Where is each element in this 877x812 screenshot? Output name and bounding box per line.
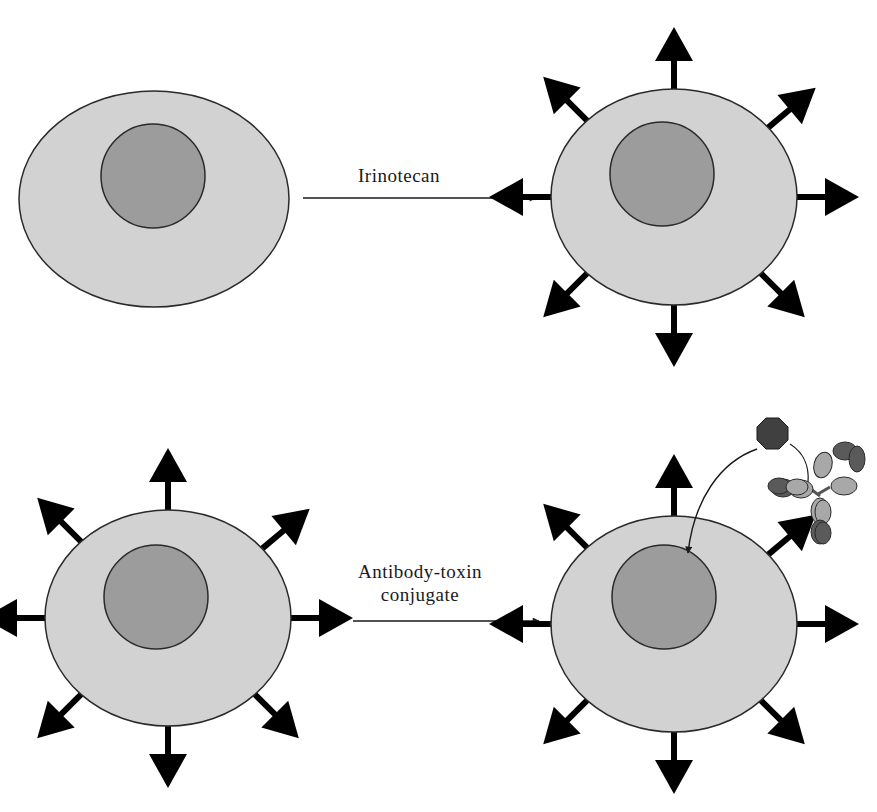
receptor-arrow-icon: [655, 301, 693, 367]
linker: [790, 444, 808, 482]
receptor-arrow-icon: [543, 77, 590, 124]
receptor-stalk: [765, 108, 791, 130]
receptor-arrow-icon: [259, 509, 310, 551]
receptor-head: [319, 599, 353, 637]
receptor-stalk: [758, 271, 782, 295]
receptor-arrow-icon: [765, 515, 816, 557]
process-label-irinotecan: Irinotecan: [358, 165, 440, 186]
receptor-stalk: [566, 99, 590, 123]
nucleus: [104, 545, 208, 649]
receptor-stalk: [60, 692, 84, 716]
process-label-line1: Antibody-toxin: [358, 561, 482, 582]
receptor-arrow-icon: [793, 178, 859, 216]
receptor-arrow-icon: [655, 27, 693, 93]
receptor-head: [825, 605, 859, 643]
receptor-arrow-icon: [543, 504, 590, 551]
receptor-head: [825, 178, 859, 216]
receptor-arrow-icon: [149, 448, 187, 514]
receptor-arrow-icon: [149, 722, 187, 788]
receptor-stalk: [566, 698, 590, 722]
receptor-arrow-icon: [489, 605, 555, 643]
receptor-arrow-icon: [758, 271, 805, 318]
receptor-stalk: [259, 529, 285, 551]
cell-with-receptors: [0, 448, 353, 788]
toxin-icon: [757, 418, 788, 449]
receptor-head: [489, 178, 523, 216]
cell-receptor-upregulated: [489, 27, 859, 367]
receptor-head: [489, 605, 523, 643]
receptor-head: [655, 454, 693, 488]
cell-untreated: [19, 91, 289, 307]
irinotecan-adc-diagram: Irinotecan Antibody-toxin conjugate: [0, 0, 877, 812]
receptor-arrow-icon: [543, 271, 590, 318]
receptor-head: [149, 754, 187, 788]
receptor-arrow-icon: [37, 498, 84, 545]
receptor-arrow-icon: [543, 698, 590, 745]
nucleus: [612, 545, 716, 649]
receptor-stalk: [60, 520, 84, 544]
receptor-arrow-icon: [0, 599, 49, 637]
cell-targeted-by-conjugate: [489, 454, 859, 794]
receptor-head: [655, 760, 693, 794]
receptor-arrow-icon: [793, 605, 859, 643]
receptor-stalk: [566, 526, 590, 550]
receptor-stalk: [758, 698, 782, 722]
receptor-arrow-icon: [765, 88, 816, 130]
receptor-arrow-icon: [252, 692, 299, 739]
receptor-head: [0, 599, 17, 637]
receptor-head: [655, 333, 693, 367]
nucleus: [101, 124, 205, 228]
receptor-arrow-icon: [655, 454, 693, 520]
receptor-head: [149, 448, 187, 482]
receptor-head: [655, 27, 693, 61]
receptor-arrow-icon: [37, 692, 84, 739]
receptor-arrow-icon: [655, 728, 693, 794]
receptor-stalk: [765, 535, 791, 557]
bottom-panel: Antibody-toxin conjugate: [0, 418, 865, 794]
antibody-icon: [768, 442, 865, 544]
process-label-line2: conjugate: [381, 584, 459, 605]
receptor-arrow-icon: [489, 178, 555, 216]
receptor-arrow-icon: [758, 698, 805, 745]
nucleus: [610, 122, 714, 226]
receptor-arrow-icon: [287, 599, 353, 637]
top-panel: Irinotecan: [19, 27, 859, 367]
receptor-stalk: [566, 271, 590, 295]
receptor-stalk: [252, 692, 276, 716]
